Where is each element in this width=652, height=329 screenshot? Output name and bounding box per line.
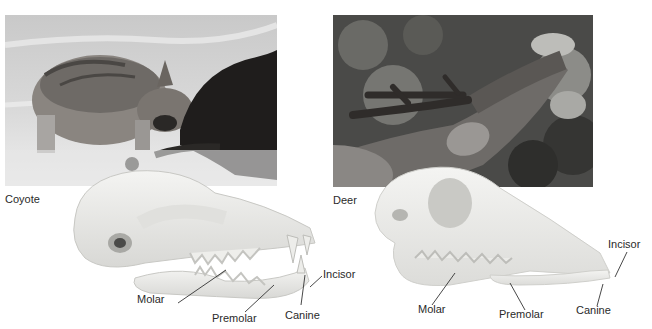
coyote-photo — [5, 15, 277, 186]
deer-photo — [333, 15, 593, 187]
coyote-skull-image — [65, 163, 320, 303]
coyote-label-molar: Molar — [137, 293, 165, 305]
deer-caption: Deer — [333, 194, 357, 206]
coyote-caption: Coyote — [5, 193, 40, 205]
deer-skull-image — [370, 163, 620, 293]
deer-label-canine: Canine — [576, 304, 611, 316]
deer-label-premolar: Premolar — [499, 308, 544, 320]
coyote-label-incisor: Incisor — [323, 268, 355, 280]
deer-label-molar: Molar — [418, 303, 446, 315]
coyote-label-premolar: Premolar — [212, 312, 257, 324]
coyote-label-canine: Canine — [285, 309, 320, 321]
deer-label-incisor: Incisor — [608, 238, 640, 250]
